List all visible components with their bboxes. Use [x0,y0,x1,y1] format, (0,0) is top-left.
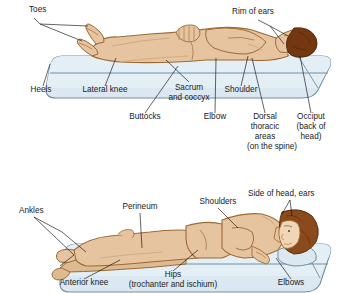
label-anterior-knee: Anterior knee [60,278,109,287]
label-shoulder: Shoulder [225,85,258,94]
eye-side [288,230,290,232]
illustration-canvas: Toes Heels Lateral knee Sacrum and coccy… [0,0,338,293]
label-back-of: (back of [296,122,326,131]
label-sacrum-coccyx: and coccyx [169,93,210,102]
label-hips: Hips [165,270,181,279]
label-on-the-spine: (on the spine) [247,142,297,151]
label-rim-of-ears: Rim of ears [232,7,274,16]
label-lateral-knee: Lateral knee [82,85,128,94]
pressure-points-illustration: Toes Heels Lateral knee Sacrum and coccy… [0,0,338,293]
label-heels: Heels [31,85,52,94]
label-ankles: Ankles [19,206,44,215]
label-buttocks: Buttocks [129,112,160,121]
label-sacrum: Sacrum [175,83,203,92]
label-elbow: Elbow [204,112,226,121]
label-perineum: Perineum [122,202,157,211]
label-dorsal: Dorsal [253,112,277,121]
label-head: head) [301,132,322,141]
label-shoulders: Shoulders [200,197,237,206]
label-side-of-head-ears: Side of head, ears [248,189,314,198]
label-areas: areas [255,132,275,141]
label-toes: Toes [29,5,46,14]
label-thoracic: thoracic [251,122,280,131]
label-occiput: Occiput [297,112,325,121]
label-trochanter-ischium: (trochanter and ischium) [129,280,218,289]
label-elbows: Elbows [278,278,304,287]
